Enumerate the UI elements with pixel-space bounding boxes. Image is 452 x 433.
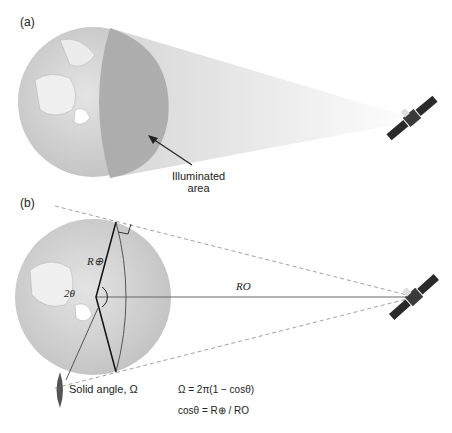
panel-b-label: (b) xyxy=(20,196,35,210)
angle-label: 2θ xyxy=(64,287,75,299)
illuminated-label-line2: area xyxy=(172,182,225,194)
earth-radius-label: R⊕ xyxy=(87,255,103,268)
illuminated-label-line1: Illuminated xyxy=(172,170,225,182)
solid-angle-label: Solid angle, Ω xyxy=(69,383,138,395)
panel-a-graphic xyxy=(18,27,439,178)
orbit-radius-label: RO xyxy=(236,280,251,292)
solid-angle-equation: Ω = 2π(1 − cosθ) xyxy=(178,384,254,395)
illuminated-area-label: Illuminated area xyxy=(172,170,225,194)
solid-angle-icon xyxy=(57,372,64,408)
cos-theta-equation: cosθ = R⊕ / RO xyxy=(178,405,249,416)
panel-a-label: (a) xyxy=(20,15,35,29)
satellite-b-icon xyxy=(384,268,441,322)
diagram-canvas xyxy=(0,0,452,433)
panel-b-graphic xyxy=(15,206,440,408)
